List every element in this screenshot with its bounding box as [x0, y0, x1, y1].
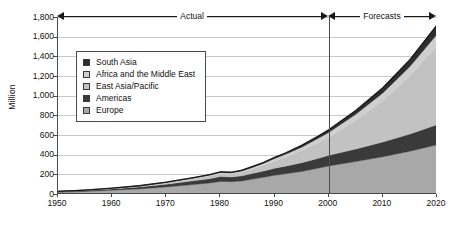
x-tick-mark — [382, 194, 383, 197]
y-tick-mark — [53, 37, 57, 38]
y-tick-mark — [53, 76, 57, 77]
x-tick-label: 1950 — [37, 198, 77, 208]
annotation-label: Forecasts — [360, 8, 403, 24]
y-tick-label: 600 — [20, 131, 54, 140]
chart-legend: South AsiaAfrica and the Middle EastEast… — [76, 51, 206, 122]
x-tick-mark — [111, 194, 112, 197]
y-tick-label: 1,600 — [20, 32, 54, 41]
legend-item: Americas — [83, 93, 195, 105]
chart-figure: Million 02004006008001,0001,2001,4001,60… — [0, 0, 457, 237]
arrow-left-icon — [57, 12, 64, 20]
x-tick-label: 2000 — [308, 198, 348, 208]
x-tick-mark — [328, 194, 329, 197]
legend-item-label: Americas — [96, 94, 131, 103]
legend-item: Africa and the Middle East — [83, 68, 195, 80]
y-tick-mark — [53, 155, 57, 156]
x-tick-label: 1990 — [254, 198, 294, 208]
x-tick-label: 1960 — [91, 198, 131, 208]
y-tick-mark — [53, 56, 57, 57]
legend-swatch-icon — [83, 59, 90, 66]
forecast-divider-line — [329, 17, 330, 194]
legend-item: Europe — [83, 105, 195, 117]
arrow-left-icon — [328, 12, 335, 20]
x-tick-label: 1980 — [199, 198, 239, 208]
y-tick-label: 1,400 — [20, 52, 54, 61]
annotation-forecasts: Forecasts — [328, 8, 436, 24]
period-annotations: ActualForecasts — [57, 8, 436, 24]
legend-item-label: East Asia/Pacific — [96, 82, 159, 91]
legend-swatch-icon — [83, 83, 90, 90]
y-tick-label: 1,800 — [20, 13, 54, 22]
y-tick-label: 200 — [20, 170, 54, 179]
x-tick-label: 1970 — [145, 198, 185, 208]
arrow-right-icon — [429, 12, 436, 20]
x-tick-mark — [274, 194, 275, 197]
y-tick-mark — [53, 135, 57, 136]
x-tick-mark — [219, 194, 220, 197]
y-tick-label: 400 — [20, 150, 54, 159]
y-tick-label: 800 — [20, 111, 54, 120]
y-tick-mark — [53, 194, 57, 195]
y-axis-label: Million — [7, 67, 17, 127]
legend-item: South Asia — [83, 56, 195, 68]
y-tick-mark — [53, 17, 57, 18]
y-tick-mark — [53, 96, 57, 97]
x-tick-label: 2020 — [416, 198, 456, 208]
legend-item-label: Africa and the Middle East — [96, 70, 195, 79]
y-tick-label: 0 — [20, 190, 54, 199]
y-tick-mark — [53, 174, 57, 175]
x-axis-tick-labels: 19501960197019801990200020102020 — [0, 198, 457, 216]
x-tick-mark — [436, 194, 437, 197]
x-tick-mark — [165, 194, 166, 197]
arrow-right-icon — [321, 12, 328, 20]
legend-swatch-icon — [83, 107, 90, 114]
x-tick-mark — [57, 194, 58, 197]
annotation-label: Actual — [177, 8, 207, 24]
legend-swatch-icon — [83, 71, 90, 78]
annotation-actual: Actual — [57, 8, 328, 24]
y-tick-mark — [53, 115, 57, 116]
legend-item: East Asia/Pacific — [83, 80, 195, 92]
legend-item-label: Europe — [96, 106, 123, 115]
legend-item-label: South Asia — [96, 58, 137, 67]
legend-swatch-icon — [83, 95, 90, 102]
y-tick-label: 1,200 — [20, 72, 54, 81]
y-tick-label: 1,000 — [20, 91, 54, 100]
x-tick-label: 2010 — [362, 198, 402, 208]
